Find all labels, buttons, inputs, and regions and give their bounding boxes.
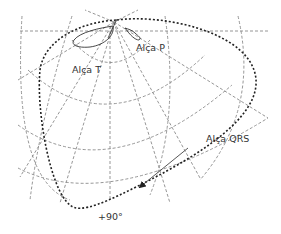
t-loop — [73, 26, 113, 47]
label-p-loop: Alça P — [136, 43, 165, 53]
diagram-canvas — [0, 0, 281, 234]
label-angle: +90° — [98, 212, 123, 222]
polar-grid — [18, 10, 268, 203]
direction-arrow — [140, 148, 188, 187]
vcg-diagram: Alça T Alça P Alça QRS +90° — [0, 0, 281, 234]
label-qrs-loop: Alça QRS — [206, 134, 249, 144]
label-t-loop: Alça T — [72, 65, 101, 75]
